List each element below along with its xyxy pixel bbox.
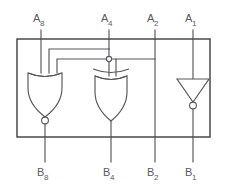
output-label-b8: B 8 — [37, 166, 49, 182]
output-label-b4: B 4 — [103, 166, 115, 182]
output-label-b8-subscript: 8 — [44, 173, 49, 182]
not-gate-triangle — [177, 79, 209, 102]
input-label-a8-subscript: 8 — [40, 19, 45, 28]
circuit-canvas: A 8 A 4 A 2 A 1 B 8 B 4 B 2 B 1 — [0, 0, 229, 192]
circuit-diagram-figure: A 8 A 4 A 2 A 1 B 8 B 4 B 2 B 1 — [0, 0, 229, 192]
output-label-b2: B 2 — [147, 166, 159, 182]
output-label-b2-subscript: 2 — [154, 173, 159, 182]
input-label-a4-subscript: 4 — [108, 19, 113, 28]
xor-gate-body — [95, 76, 127, 121]
net-a2-to-nor — [57, 59, 155, 73]
nor-gate-bubble-icon — [42, 117, 49, 124]
junction-dot-a4-xor — [106, 56, 111, 61]
input-label-a4: A 4 — [101, 12, 113, 28]
xor-gate-outer-arc — [93, 69, 129, 73]
input-label-a2-subscript: 2 — [154, 19, 159, 28]
nor-gate-body — [28, 73, 62, 117]
output-label-b1: B 1 — [185, 166, 197, 182]
input-label-a8: A 8 — [33, 12, 45, 28]
input-label-a1-subscript: 1 — [192, 19, 197, 28]
output-label-b1-subscript: 1 — [192, 173, 197, 182]
not-gate-bubble-icon — [190, 102, 197, 109]
input-label-a2: A 2 — [147, 12, 159, 28]
net-a4-to-nor — [49, 49, 109, 73]
input-label-a1: A 1 — [185, 12, 197, 28]
output-label-b4-subscript: 4 — [110, 173, 115, 182]
